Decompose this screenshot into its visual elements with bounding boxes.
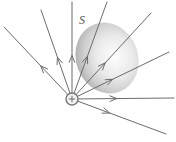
figure-canvas: S: [0, 0, 176, 142]
point-charge: [66, 93, 78, 105]
gaussian-surface-ellipse: [66, 14, 149, 103]
surface-label-s: S: [79, 14, 85, 26]
ray-horizontal-right: [78, 98, 174, 99]
ray-down-right: [78, 101, 166, 134]
diagram-svg: [0, 0, 176, 142]
